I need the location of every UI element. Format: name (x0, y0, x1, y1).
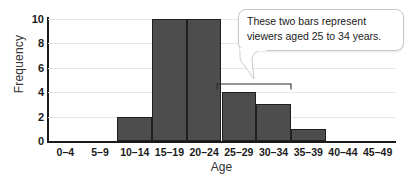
callout-box: These two bars represent viewers aged 25… (238, 9, 404, 51)
y-tick-0: 0 (20, 136, 44, 147)
callout-text-block: These two bars represent viewers aged 25… (247, 14, 396, 44)
x-tick-45-49: 45–49 (360, 145, 395, 159)
gridline-6 (48, 68, 395, 69)
x-tick-25-29: 25–29 (222, 145, 257, 159)
bar-30-34[interactable] (256, 104, 291, 141)
histogram-figure: 10 8 6 4 2 0 Frequency 0–4 5–9 10–14 15–… (0, 0, 409, 181)
callout-line-1: These two bars represent (247, 14, 396, 29)
bar-25-29[interactable] (222, 92, 257, 141)
x-tick-40-44: 40–44 (326, 145, 361, 159)
x-axis-tick-labels: 0–4 5–9 10–14 15–19 20–24 25–29 30–34 35… (48, 145, 395, 161)
x-tick-20-24: 20–24 (187, 145, 222, 159)
x-tick-5-9: 5–9 (83, 145, 118, 159)
bar-35-39[interactable] (291, 129, 326, 141)
x-axis-title: Age (48, 160, 395, 174)
x-tick-0-4: 0–4 (48, 145, 83, 159)
x-tick-10-14: 10–14 (117, 145, 152, 159)
x-tick-15-19: 15–19 (152, 145, 187, 159)
x-tick-35-39: 35–39 (291, 145, 326, 159)
callout-line-2: viewers aged 25 to 34 years. (247, 29, 396, 44)
bracket-annotation (216, 80, 292, 90)
callout-tail-icon (238, 48, 272, 80)
bar-15-19[interactable] (152, 19, 187, 141)
x-axis-line (47, 141, 396, 143)
x-tick-30-34: 30–34 (256, 145, 291, 159)
bar-10-14[interactable] (117, 117, 152, 141)
y-axis-title: Frequency (12, 14, 26, 114)
